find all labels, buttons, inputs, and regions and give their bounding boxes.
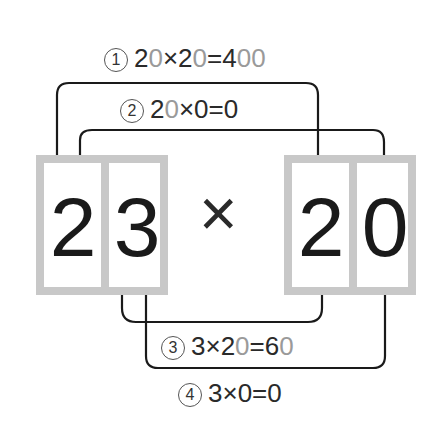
left-number-box: 2 3 [36, 155, 168, 295]
step-marker-2: 2 [120, 99, 144, 123]
multiply-operator: × [199, 180, 238, 246]
multiplication-diagram: 2 3 × 2 0 120×20=400 220×0=0 33×20=60 43… [0, 0, 444, 424]
right-number-box: 2 0 [284, 155, 416, 295]
step-4-label: 43×0=0 [178, 380, 282, 407]
step-marker-4: 4 [178, 383, 202, 407]
step-3-label: 33×20=60 [161, 333, 294, 360]
step-marker-1: 1 [104, 48, 128, 72]
right-digit-tens: 2 [292, 185, 350, 269]
step-marker-3: 3 [161, 336, 185, 360]
left-digit-ones: 3 [108, 185, 166, 269]
right-digit-ones: 0 [356, 185, 414, 269]
step-1-label: 120×20=400 [104, 45, 266, 72]
step-2-label: 220×0=0 [120, 96, 238, 123]
left-digit-tens: 2 [44, 185, 102, 269]
